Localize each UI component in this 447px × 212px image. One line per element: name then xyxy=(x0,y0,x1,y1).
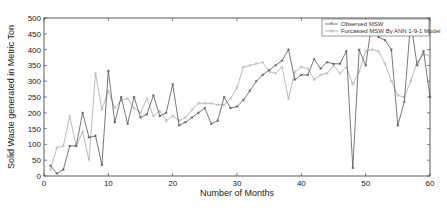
y-tick-label: 250 xyxy=(28,93,42,102)
x-tick-label: 50 xyxy=(361,179,370,188)
line-chart: 050100150200250300350400450500 010203040… xyxy=(0,0,447,212)
x-tick-label: 10 xyxy=(104,179,113,188)
x-tick-label: 20 xyxy=(168,179,177,188)
y-tick-label: 500 xyxy=(28,14,42,23)
x-tick-label: 0 xyxy=(42,179,47,188)
x-tick-label: 30 xyxy=(233,179,242,188)
y-tick-label: 350 xyxy=(28,61,42,70)
legend-observed: Observed MSW xyxy=(341,21,384,27)
plot-area xyxy=(44,18,430,176)
y-tick-label: 50 xyxy=(32,156,41,165)
y-tick-label: 400 xyxy=(28,46,42,55)
x-tick-label: 40 xyxy=(297,179,306,188)
y-axis-label: Solid Waste generated in Metric Ton xyxy=(6,25,16,169)
y-tick-label: 100 xyxy=(28,140,42,149)
x-tick-label: 60 xyxy=(426,179,435,188)
y-tick-label: 150 xyxy=(28,125,42,134)
legend-forecast: Forcasted MSW By ANN 1-9-1 Model xyxy=(341,28,440,34)
legend: * Observed MSW Forcasted MSW By ANN 1-9-… xyxy=(322,19,440,36)
y-tick-label: 300 xyxy=(28,77,42,86)
y-tick-label: 200 xyxy=(28,109,42,118)
x-axis-label: Number of Months xyxy=(200,188,275,198)
y-tick-label: 450 xyxy=(28,30,42,39)
